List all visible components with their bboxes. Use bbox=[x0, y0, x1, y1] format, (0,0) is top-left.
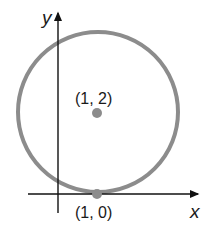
center-point-label: (1, 2) bbox=[75, 90, 112, 107]
y-axis-label: y bbox=[40, 7, 53, 28]
tangent-point-label: (1, 0) bbox=[75, 204, 112, 221]
tangent-point bbox=[92, 189, 102, 199]
center-point bbox=[92, 108, 102, 118]
x-axis-label: x bbox=[189, 201, 201, 222]
circle-diagram: y x (1, 2) (1, 0) bbox=[0, 0, 214, 234]
